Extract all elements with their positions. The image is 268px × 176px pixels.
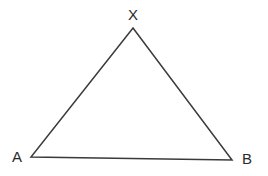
triangle-outline — [31, 28, 232, 160]
vertex-label-x: X — [128, 7, 138, 22]
vertex-label-a: A — [12, 149, 22, 164]
vertex-label-b: B — [242, 151, 252, 166]
triangle-diagram-canvas: X A B — [0, 0, 268, 176]
triangle-figure — [0, 0, 268, 176]
